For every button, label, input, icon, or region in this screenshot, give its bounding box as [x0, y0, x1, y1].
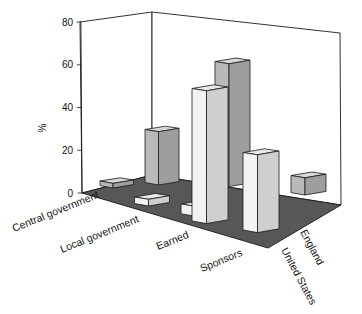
- category-label-central-government: Central government: [10, 188, 100, 234]
- bar-left: [291, 176, 305, 196]
- bar-right: [305, 174, 326, 195]
- y-tick-label-80: 80: [62, 17, 74, 28]
- bar-united-states-earned[interactable]: [192, 85, 228, 224]
- bar-england-local-government[interactable]: [145, 126, 179, 185]
- bar-right: [258, 151, 280, 233]
- bar-right: [207, 87, 229, 224]
- y-tick-label-60: 60: [62, 59, 74, 70]
- category-label-sponsors: Sponsors: [198, 246, 244, 274]
- y-tick-label-40: 40: [62, 102, 74, 113]
- bar-left: [192, 89, 207, 224]
- wall-left: [80, 12, 152, 193]
- y-tick-label-20: 20: [62, 145, 74, 156]
- bar-right: [159, 128, 180, 185]
- y-axis-title: %: [37, 123, 48, 132]
- bar-left: [243, 153, 258, 233]
- series-label-england: England: [298, 227, 327, 267]
- category-label-local-government: Local government: [58, 212, 140, 254]
- y-axis: 80 60 40 20 0 %: [37, 17, 82, 199]
- bar-united-states-sponsors[interactable]: [243, 149, 279, 233]
- category-label-earned: Earned: [154, 228, 190, 252]
- series-axis-labels: England United States: [279, 227, 327, 306]
- chart-container: 80 60 40 20 0 %: [0, 0, 362, 314]
- bar-left: [145, 130, 159, 186]
- bar-england-sponsors[interactable]: [291, 172, 326, 195]
- bar-chart-3d: 80 60 40 20 0 %: [0, 0, 362, 314]
